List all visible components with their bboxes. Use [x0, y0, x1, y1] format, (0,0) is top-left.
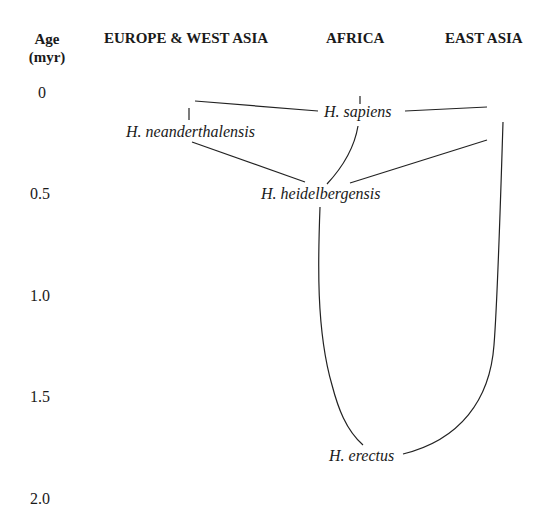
east-asia-lineage-line — [403, 122, 503, 454]
heidelbergensis-to-east-asia-line — [350, 140, 487, 183]
taxon-h-erectus: H. erectus — [329, 447, 394, 465]
lineage-lines — [0, 0, 534, 515]
sapiens-to-europe-line — [195, 101, 318, 111]
taxon-h-sapiens: H. sapiens — [324, 103, 392, 121]
heidelbergensis-to-sapiens-line — [327, 126, 358, 184]
sapiens-to-east-asia-line — [405, 107, 487, 111]
heidelbergensis-to-neanderthalensis-line — [192, 142, 305, 182]
erectus-to-heidelbergensis-line — [319, 207, 363, 445]
taxon-h-heidelbergensis: H. heidelbergensis — [261, 185, 380, 203]
taxon-h-neanderthalensis: H. neanderthalensis — [126, 123, 255, 141]
